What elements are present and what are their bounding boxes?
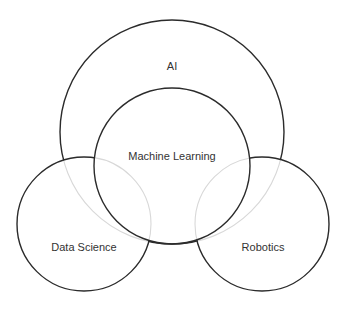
- ai-circle: [60, 20, 284, 244]
- venn-diagram: AI Machine Learning Data Science Robotic…: [0, 0, 342, 309]
- ai-circle-hidden-arc-rob: [60, 20, 284, 244]
- robotics-label: Robotics: [242, 241, 285, 253]
- data-science-circle: [17, 157, 151, 291]
- machine-learning-label: Machine Learning: [128, 150, 215, 162]
- ai-label: AI: [167, 60, 177, 72]
- robotics-circle: [195, 157, 329, 291]
- data-science-label: Data Science: [51, 241, 116, 253]
- ai-circle-hidden-arc-ds: [60, 20, 284, 244]
